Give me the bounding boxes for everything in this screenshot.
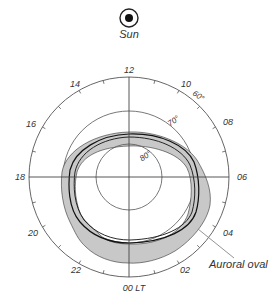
lt-label-20: 20 xyxy=(27,228,38,238)
lt-label-16: 16 xyxy=(26,119,36,129)
sun-icon xyxy=(120,9,138,27)
auroral-oval-diagram: Sun 12 10 08 06 04 02 00 LT xyxy=(0,0,272,294)
lt-label-14: 14 xyxy=(70,79,80,89)
lat-label-60: 60° xyxy=(191,89,207,104)
lt-label-10: 10 xyxy=(181,79,191,89)
lat-label-70: 70° xyxy=(166,113,182,128)
lt-label-08: 08 xyxy=(223,117,233,127)
lt-label-12: 12 xyxy=(124,65,134,75)
lt-label-00: 00 LT xyxy=(123,283,147,293)
lt-label-04: 04 xyxy=(223,228,233,238)
lt-label-02: 02 xyxy=(180,265,190,275)
auroral-oval-band xyxy=(61,132,210,263)
sun-label: Sun xyxy=(119,28,139,40)
lt-label-18: 18 xyxy=(15,172,25,182)
oval-label: Auroral oval xyxy=(208,258,268,270)
lt-label-22: 22 xyxy=(70,265,81,275)
lt-label-06: 06 xyxy=(237,172,247,182)
lat-label-80: 80° xyxy=(138,148,154,163)
